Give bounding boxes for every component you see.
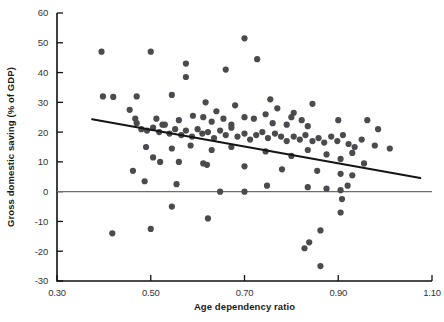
data-point (247, 136, 253, 142)
data-point (195, 126, 201, 132)
data-point (253, 132, 259, 138)
data-point (349, 172, 355, 178)
y-axis-title: Gross domestic saving (% of GDP) (5, 67, 16, 227)
data-point (169, 203, 175, 209)
data-point (364, 117, 370, 123)
data-point (297, 136, 303, 142)
data-point (288, 114, 294, 120)
data-point (254, 56, 260, 62)
y-tick-label: -30 (35, 275, 48, 286)
data-point (314, 168, 320, 174)
data-point (183, 61, 189, 67)
y-tick-label: 50 (38, 37, 48, 48)
data-point (267, 96, 273, 102)
x-axis-title: Age dependency ratio (194, 301, 295, 312)
data-point (173, 181, 179, 187)
data-point (130, 168, 136, 174)
data-point (241, 131, 247, 137)
data-point (148, 226, 154, 232)
data-point (317, 227, 323, 233)
data-point (375, 126, 381, 132)
data-point (223, 132, 229, 138)
data-point (176, 159, 182, 165)
data-point (335, 117, 341, 123)
x-tick-label: 0.30 (48, 287, 66, 298)
data-point (345, 183, 351, 189)
data-point (274, 105, 280, 111)
data-point (183, 128, 189, 134)
y-tick-label: -10 (35, 216, 48, 227)
data-points (98, 35, 392, 269)
data-point (309, 138, 315, 144)
data-point (157, 159, 163, 165)
data-point (162, 122, 168, 128)
data-point (172, 126, 178, 132)
data-point (272, 131, 278, 137)
x-tick-label: 0.90 (329, 287, 347, 298)
data-point (205, 129, 211, 135)
data-point (143, 144, 149, 150)
x-tick-label: 0.70 (236, 287, 254, 298)
data-point (328, 133, 334, 139)
data-point (337, 171, 343, 177)
data-point (349, 150, 355, 156)
data-point (302, 132, 308, 138)
data-point (345, 141, 351, 147)
data-point (291, 133, 297, 139)
data-point (387, 145, 393, 151)
y-tick-label: 20 (38, 127, 48, 138)
data-point (217, 128, 223, 134)
data-point (241, 163, 247, 169)
scatter-plot-figure: -30-20-1001020304050600.300.500.700.901.… (0, 0, 444, 322)
data-point (176, 117, 182, 123)
data-point (109, 230, 115, 236)
data-point (284, 138, 290, 144)
y-tick-label: 40 (38, 67, 48, 78)
data-point (209, 147, 215, 153)
data-point (337, 156, 343, 162)
data-point (202, 99, 208, 105)
data-point (183, 74, 189, 80)
data-point (339, 196, 345, 202)
data-point (305, 147, 311, 153)
data-point (359, 136, 365, 142)
data-point (321, 139, 327, 145)
data-point (234, 133, 240, 139)
y-tick-label: 30 (38, 97, 48, 108)
data-point (334, 138, 340, 144)
data-point (153, 116, 159, 122)
y-tick-label: 0 (43, 186, 48, 197)
chart-canvas: -30-20-1001020304050600.300.500.700.901.… (0, 0, 444, 322)
data-point (134, 93, 140, 99)
x-tick-label: 1.10 (423, 287, 441, 298)
data-point (301, 245, 307, 251)
data-point (284, 122, 290, 128)
data-point (98, 49, 104, 55)
data-point (305, 184, 311, 190)
data-point (187, 142, 193, 148)
data-point (209, 119, 215, 125)
data-point (148, 49, 154, 55)
trend-line (92, 119, 420, 178)
data-point (134, 120, 140, 126)
data-point (190, 113, 196, 119)
data-point (200, 160, 206, 166)
data-point (205, 215, 211, 221)
data-point (262, 111, 268, 117)
data-point (323, 186, 329, 192)
data-point (200, 114, 206, 120)
data-point (337, 209, 343, 215)
data-point (305, 123, 311, 129)
data-point (264, 183, 270, 189)
data-point (251, 116, 257, 122)
data-point (228, 125, 234, 131)
data-point (199, 131, 205, 137)
data-point (150, 154, 156, 160)
data-point (220, 116, 226, 122)
data-point (270, 120, 276, 126)
data-point (309, 101, 315, 107)
data-point (278, 133, 284, 139)
data-point (169, 92, 175, 98)
data-point (241, 114, 247, 120)
data-point (241, 189, 247, 195)
